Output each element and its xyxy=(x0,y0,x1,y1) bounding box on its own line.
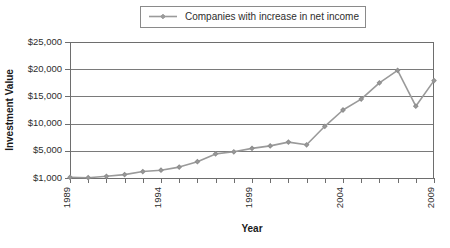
x-axis-title: Year xyxy=(241,223,262,234)
x-tick-label: 2004 xyxy=(334,187,345,208)
x-tick-label: 1994 xyxy=(152,187,163,208)
legend-label: Companies with increase in net income xyxy=(185,11,359,22)
data-point-marker xyxy=(268,144,272,148)
data-point-marker xyxy=(177,165,181,169)
y-tick-label: $15,000 xyxy=(28,90,62,101)
chart-canvas: $1,000$5,000$10,000$15,000$20,000$25,000… xyxy=(0,0,450,248)
x-axis-ticks xyxy=(65,43,435,184)
x-tick-label: 2009 xyxy=(425,187,436,208)
data-point-marker xyxy=(123,173,127,177)
data-point-marker xyxy=(141,169,145,173)
x-tick-label: 1999 xyxy=(243,187,254,208)
x-axis-tick-labels: 19891994199920042009 xyxy=(61,187,436,208)
data-point-marker xyxy=(86,176,90,180)
y-tick-label: $25,000 xyxy=(28,36,62,47)
plot-frame xyxy=(70,42,434,179)
y-axis-tick-labels: $1,000$5,000$10,000$15,000$20,000$25,000 xyxy=(28,36,62,183)
y-tick-label: $20,000 xyxy=(28,63,62,74)
y-tick-label: $5,000 xyxy=(33,144,62,155)
data-point-marker xyxy=(104,174,108,178)
data-point-marker xyxy=(232,150,236,154)
grid-lines xyxy=(70,43,434,152)
x-tick-label: 1989 xyxy=(61,187,72,208)
data-point-marker xyxy=(250,146,254,150)
y-tick-label: $10,000 xyxy=(28,117,62,128)
data-point-marker xyxy=(286,140,290,144)
y-axis-title: Investment Value xyxy=(4,69,15,151)
y-tick-label: $1,000 xyxy=(33,172,62,183)
chart-legend[interactable]: Companies with increase in net income xyxy=(141,7,366,28)
data-point-marker xyxy=(159,168,163,172)
line-chart-figure: $1,000$5,000$10,000$15,000$20,000$25,000… xyxy=(0,0,450,248)
